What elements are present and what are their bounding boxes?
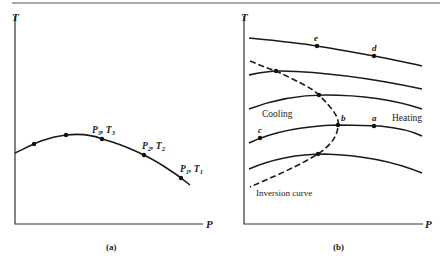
point-p1-t1	[179, 176, 183, 180]
label-e: e	[314, 33, 318, 43]
inversion-point-3	[316, 152, 320, 156]
point-a	[372, 124, 376, 128]
region-cooling-label: Cooling	[262, 109, 293, 119]
isenthalp-2	[249, 71, 422, 89]
panel-b-x-label: P	[425, 218, 432, 230]
point-p2-t2	[142, 153, 146, 157]
panel-b: T P e d c b a Cooling Heating Inversion …	[241, 11, 432, 252]
label-p2-t2: P2, T2	[142, 141, 166, 152]
label-c: c	[258, 125, 262, 135]
isenthalp-3	[249, 95, 422, 109]
isenthalp-1	[249, 38, 422, 66]
panel-b-caption: (b)	[333, 242, 344, 252]
label-p3-t3: P3, T3	[92, 125, 116, 136]
label-a: a	[372, 113, 377, 123]
panel-a-y-label: T	[12, 11, 20, 23]
label-b: b	[341, 113, 346, 123]
panel-a-x-label: P	[206, 218, 213, 230]
panel-a: T P P3, T3 P2, T2 P1, T1 (a)	[12, 11, 213, 252]
isenthalp-5	[249, 154, 422, 173]
point-a-1	[32, 142, 36, 146]
panel-a-caption: (a)	[106, 242, 117, 252]
isenthalpic-curve	[15, 134, 190, 185]
inversion-point-1	[274, 69, 278, 73]
panel-b-y-label: T	[241, 11, 249, 23]
inversion-curve	[250, 61, 338, 187]
figure: T P P3, T3 P2, T2 P1, T1 (a) T P	[0, 0, 445, 260]
point-e	[315, 44, 319, 48]
panel-a-axes	[15, 16, 203, 224]
isenthalp-4	[249, 125, 422, 143]
point-a-2	[64, 133, 68, 137]
point-b	[336, 123, 340, 127]
label-p1-t1: P1, T1	[180, 164, 203, 175]
label-d: d	[372, 43, 377, 53]
point-p3-t3	[100, 137, 104, 141]
inversion-curve-label: Inversion curve	[256, 188, 312, 198]
inversion-point-2	[317, 93, 321, 97]
point-c	[258, 136, 262, 140]
region-heating-label: Heating	[392, 113, 422, 123]
point-d	[372, 54, 376, 58]
